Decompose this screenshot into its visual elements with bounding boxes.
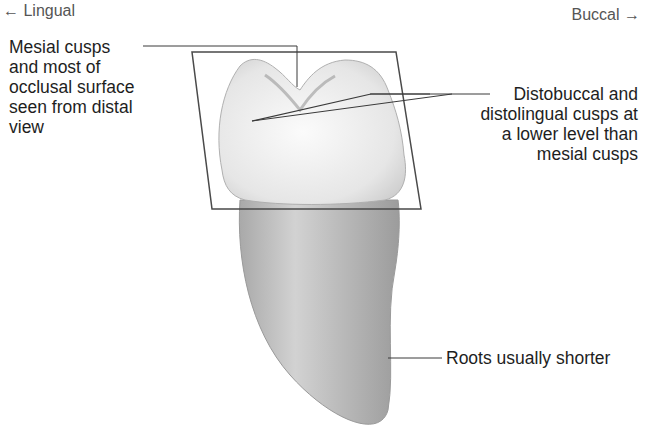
tooth-root: [239, 200, 399, 424]
roots-label: Roots usually shorter: [446, 348, 610, 368]
mesial-cusps-label: Mesial cusps and most of occlusal surfac…: [9, 37, 134, 137]
tooth-crown: [219, 59, 406, 204]
distal-cusps-label: Distobuccal and distolingual cusps at a …: [480, 84, 638, 164]
